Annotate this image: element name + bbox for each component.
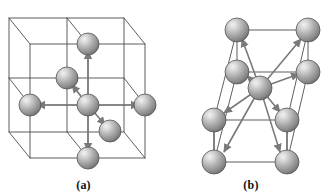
corner-front-bottom-left xyxy=(202,150,226,174)
simple-cubic-diagram xyxy=(0,0,167,175)
corner-back-top-left xyxy=(225,18,249,42)
neighbor-bottom xyxy=(77,147,99,169)
corner-front-top-right xyxy=(275,108,299,132)
panel-b-label: (b) xyxy=(167,178,335,193)
neighbor-back-left xyxy=(56,67,78,89)
crystal-structure-figure: (a) xyxy=(0,0,335,195)
panel-a-label: (a) xyxy=(0,178,167,193)
neighbor-left xyxy=(19,94,41,116)
atoms-a xyxy=(19,33,156,169)
corner-back-top-right xyxy=(296,18,320,42)
body-centered-cubic-diagram xyxy=(167,0,335,175)
neighbor-top xyxy=(77,33,99,55)
corner-back-bottom-right xyxy=(296,60,320,84)
corner-front-top-left xyxy=(202,108,226,132)
panel-body-centered-cubic: (b) xyxy=(167,0,335,195)
panel-simple-cubic: (a) xyxy=(0,0,167,195)
lattice-wireframe-a xyxy=(9,18,145,158)
corner-back-bottom-left xyxy=(225,60,249,84)
corner-front-bottom-right xyxy=(275,150,299,174)
neighbor-right xyxy=(134,94,156,116)
center-atom xyxy=(77,94,99,116)
body-center-atom xyxy=(248,76,272,100)
neighbor-front-right xyxy=(99,120,121,142)
